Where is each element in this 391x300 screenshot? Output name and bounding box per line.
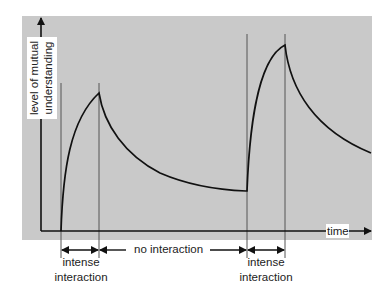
plot-background bbox=[22, 16, 372, 240]
phase3-label-line1: intense bbox=[231, 257, 301, 269]
y-axis-label: level of mutual understanding bbox=[27, 37, 57, 119]
phase3-label: intense interaction bbox=[231, 257, 301, 283]
y-axis-label-line2: understanding bbox=[41, 37, 55, 119]
x-axis-label: time bbox=[327, 224, 349, 238]
phase1-label-line2: interaction bbox=[46, 272, 116, 284]
phase2-label: no interaction bbox=[134, 244, 203, 256]
phase3-label-line2: interaction bbox=[231, 272, 301, 284]
phase1-label: intense interaction bbox=[46, 257, 116, 283]
y-axis-label-line1: level of mutual bbox=[27, 37, 41, 119]
diagram: level of mutual understanding time inten… bbox=[0, 0, 391, 300]
phase1-label-line1: intense bbox=[46, 257, 116, 269]
